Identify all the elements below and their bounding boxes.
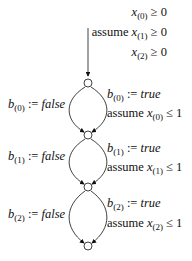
- edge-1-left-label: b(1) := false: [8, 149, 65, 163]
- edge-0-left-label: b(0) := false: [8, 97, 65, 111]
- edge-2-left-label: b(2) := false: [8, 207, 65, 221]
- edge-2-right-label-1: b(2) := true: [107, 196, 161, 210]
- initial-label-2: x(2) ≥ 0: [132, 45, 167, 59]
- edge-q0-q1: [69, 87, 107, 132]
- state-node-q2: [84, 183, 92, 191]
- initial-label-1: assume x(1) ≥ 0: [92, 25, 167, 39]
- edge-0-right-label-1: b(0) := true: [107, 87, 161, 101]
- edge-q1-q2: [69, 139, 107, 184]
- initial-label-0: x(0) ≥ 0: [132, 5, 167, 19]
- state-node-q1: [84, 131, 92, 139]
- state-node-q3: [84, 242, 92, 250]
- edge-0-right-label-2: assume x(0) ≤ 1: [107, 106, 182, 120]
- edge-q2-q3: [69, 191, 107, 243]
- edge-2-right-label-2: assume x(2) ≤ 1: [107, 216, 182, 230]
- edge-1-right-label-2: assume x(1) ≤ 1: [107, 160, 182, 174]
- edge-1-right-label-1: b(1) := true: [107, 141, 161, 155]
- state-node-q0: [84, 79, 92, 87]
